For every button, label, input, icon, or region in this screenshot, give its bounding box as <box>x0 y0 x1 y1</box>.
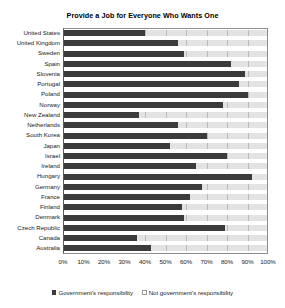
bar-row: Canada <box>0 233 285 243</box>
x-tick-label: 30% <box>118 258 130 265</box>
bar-track <box>63 193 268 201</box>
bar-segment-government <box>63 51 184 57</box>
chart-legend: Government's responsibilityNot governmen… <box>0 289 285 296</box>
category-label: Sweden <box>0 50 63 56</box>
bar-track <box>63 183 268 191</box>
x-tick-label: 90% <box>241 258 253 265</box>
category-label: United States <box>0 30 63 36</box>
bar-row: Ireland <box>0 161 285 171</box>
bar-track <box>63 80 268 88</box>
bar-row: Portugal <box>0 79 285 89</box>
category-label: Czech Republic <box>0 225 63 231</box>
category-label: France <box>0 194 63 200</box>
bar-segment-government <box>63 245 151 251</box>
bar-segment-government <box>63 30 145 36</box>
bar-row: Denmark <box>0 213 285 223</box>
bar-row: Norway <box>0 100 285 110</box>
bar-row: Finland <box>0 202 285 212</box>
bar-track <box>63 111 268 119</box>
bar-row: Japan <box>0 141 285 151</box>
bar-track <box>63 142 268 150</box>
bar-segment-government <box>63 235 137 241</box>
bar-track <box>63 214 268 222</box>
chart-title: Provide a Job for Everyone Who Wants One <box>0 11 285 20</box>
bar-row: France <box>0 192 285 202</box>
bar-row: Spain <box>0 59 285 69</box>
bar-track <box>63 152 268 160</box>
bar-track <box>63 29 268 37</box>
bar-track <box>63 173 268 181</box>
bar-segment-government <box>63 215 184 221</box>
legend-item[interactable]: Not government's responsibility <box>142 289 233 296</box>
x-axis: 0%10%20%30%40%50%60%70%80%90%100% <box>63 255 268 267</box>
x-tick-label: 10% <box>77 258 89 265</box>
category-label: Denmark <box>0 214 63 220</box>
bar-segment-government <box>63 71 245 77</box>
category-label: Hungary <box>0 173 63 179</box>
category-label: Slovenia <box>0 71 63 77</box>
bar-segment-government <box>63 174 252 180</box>
bar-track <box>63 244 268 252</box>
bar-track <box>63 70 268 78</box>
bar-segment-government <box>63 184 202 190</box>
bar-segment-government <box>63 153 227 159</box>
category-label: Japan <box>0 143 63 149</box>
bar-segment-government <box>63 92 248 98</box>
plot-area: United StatesUnited KingdomSwedenSpainSl… <box>0 28 285 270</box>
bar-rows: United StatesUnited KingdomSwedenSpainSl… <box>0 28 285 254</box>
bar-track <box>63 162 268 170</box>
bar-track <box>63 234 268 242</box>
category-label: South Korea <box>0 132 63 138</box>
x-tick-label: 40% <box>139 258 151 265</box>
category-label: Finland <box>0 204 63 210</box>
bar-track <box>63 101 268 109</box>
x-tick-label: 50% <box>159 258 171 265</box>
bar-row: United States <box>0 28 285 38</box>
bar-segment-government <box>63 40 178 46</box>
bar-segment-government <box>63 194 190 200</box>
chart-container: Provide a Job for Everyone Who Wants One… <box>0 0 285 308</box>
bar-segment-government <box>63 133 207 139</box>
bar-track <box>63 60 268 68</box>
legend-swatch-not-government-icon <box>142 290 147 295</box>
x-tick-label: 20% <box>98 258 110 265</box>
bar-segment-government <box>63 122 178 128</box>
bar-row: Germany <box>0 182 285 192</box>
x-tick-label: 70% <box>200 258 212 265</box>
bar-row: Slovenia <box>0 69 285 79</box>
category-label: Portugal <box>0 81 63 87</box>
category-label: United Kingdom <box>0 40 63 46</box>
bar-segment-government <box>63 102 223 108</box>
category-label: Norway <box>0 102 63 108</box>
bar-track <box>63 91 268 99</box>
bar-segment-government <box>63 163 196 169</box>
legend-label: Government's responsibility <box>58 289 133 296</box>
category-label: Netherlands <box>0 122 63 128</box>
bar-segment-government <box>63 204 182 210</box>
legend-swatch-government-icon <box>52 290 57 295</box>
bar-segment-government <box>63 61 231 67</box>
bar-track <box>63 50 268 58</box>
bar-row: South Korea <box>0 131 285 141</box>
bar-segment-government <box>63 225 225 231</box>
bar-track <box>63 121 268 129</box>
category-label: Canada <box>0 235 63 241</box>
bar-segment-government <box>63 143 170 149</box>
bar-row: Poland <box>0 90 285 100</box>
bar-row: Sweden <box>0 49 285 59</box>
bar-segment-government <box>63 112 139 118</box>
legend-item[interactable]: Government's responsibility <box>52 289 133 296</box>
bar-row: Czech Republic <box>0 223 285 233</box>
legend-label: Not government's responsibility <box>149 289 233 296</box>
bar-track <box>63 132 268 140</box>
bar-row: Netherlands <box>0 120 285 130</box>
bar-track <box>63 39 268 47</box>
bar-row: United Kingdom <box>0 38 285 48</box>
bar-segment-government <box>63 81 239 87</box>
category-label: Ireland <box>0 163 63 169</box>
bar-row: Israel <box>0 151 285 161</box>
bar-row: New Zealand <box>0 110 285 120</box>
x-tick-label: 100% <box>260 258 276 265</box>
x-tick-label: 60% <box>180 258 192 265</box>
category-label: Spain <box>0 61 63 67</box>
